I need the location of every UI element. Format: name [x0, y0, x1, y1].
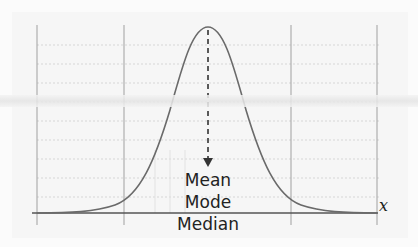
label-mode: Mode: [168, 192, 248, 212]
label-mean: Mean: [168, 170, 248, 190]
normal-distribution-figure: Mean Mode Median x: [0, 0, 418, 247]
label-median: Median: [168, 214, 248, 234]
arrow-head-icon: [203, 158, 213, 167]
blurred-band: [0, 95, 418, 107]
x-axis-label: x: [379, 196, 388, 215]
